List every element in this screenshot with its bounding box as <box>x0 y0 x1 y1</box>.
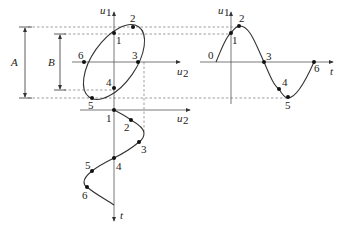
svg-text:4: 4 <box>116 160 122 172</box>
svg-text:3: 3 <box>132 49 138 61</box>
dimension-b: B <box>48 34 66 90</box>
svg-text:0: 0 <box>208 49 214 61</box>
label-b: B <box>48 56 55 68</box>
svg-text:t: t <box>330 65 334 77</box>
svg-text:3: 3 <box>141 143 147 155</box>
projection-lines <box>28 27 288 133</box>
ellipse-plot: u 1 u 2 1 2 3 4 5 6 <box>71 4 188 111</box>
svg-text:2: 2 <box>183 114 189 126</box>
u1-time-plot: u 1 t 0 1 2 3 4 5 6 <box>200 4 334 111</box>
svg-text:6: 6 <box>82 189 88 201</box>
svg-text:1: 1 <box>116 34 122 46</box>
svg-text:4: 4 <box>106 76 112 88</box>
svg-text:5: 5 <box>85 159 91 171</box>
svg-text:1: 1 <box>224 6 230 18</box>
svg-text:5: 5 <box>285 99 291 111</box>
u2-time-plot: u 2 t 1 2 3 4 5 6 <box>80 104 190 221</box>
svg-text:2: 2 <box>124 121 130 133</box>
svg-text:1: 1 <box>106 112 112 124</box>
svg-text:5: 5 <box>88 99 94 111</box>
svg-text:3: 3 <box>266 50 272 62</box>
label-a: A <box>10 56 18 68</box>
svg-text:1: 1 <box>232 34 238 46</box>
svg-text:2: 2 <box>183 67 189 79</box>
lissajous-diagram: A B u 1 u 2 1 2 3 4 5 6 u 1 t <box>0 0 347 236</box>
svg-text:1: 1 <box>106 6 112 18</box>
svg-text:6: 6 <box>314 62 320 74</box>
svg-text:t: t <box>120 209 124 221</box>
svg-text:4: 4 <box>282 76 288 88</box>
dimension-a: A <box>10 27 32 98</box>
svg-text:2: 2 <box>239 12 245 24</box>
svg-text:2: 2 <box>130 12 136 24</box>
svg-text:6: 6 <box>78 49 84 61</box>
